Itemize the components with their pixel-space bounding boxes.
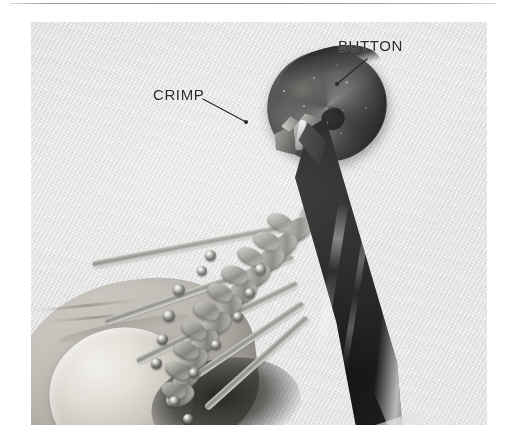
annotation-label-crimp: CRIMP — [153, 86, 204, 103]
annotation-label-button: BUTTON — [338, 37, 403, 54]
photo-vignette — [31, 22, 487, 425]
top-divider-rule — [10, 3, 496, 4]
figure-page: BUTTON CRIMP — [0, 0, 508, 441]
photo-figure — [31, 22, 487, 425]
